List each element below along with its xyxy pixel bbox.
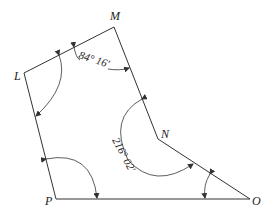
vertex-label-o: O xyxy=(252,194,261,208)
vertex-label-p: P xyxy=(44,194,53,208)
vertex-label-n: N xyxy=(160,127,170,141)
polygon-diagram: M L P O N 84° 16′ 216° 02′ xyxy=(0,0,273,216)
vertex-label-l: L xyxy=(13,69,21,83)
polygon-outline xyxy=(24,27,250,199)
angle-arc-m-right xyxy=(108,68,129,70)
angle-arc-l xyxy=(36,55,62,116)
angle-arc-p xyxy=(46,158,97,198)
vertex-label-m: M xyxy=(109,9,121,23)
angle-label-n: 216° 02′ xyxy=(110,135,138,174)
angle-label-m: 84° 16′ xyxy=(77,48,111,69)
angle-arc-o xyxy=(205,174,210,198)
